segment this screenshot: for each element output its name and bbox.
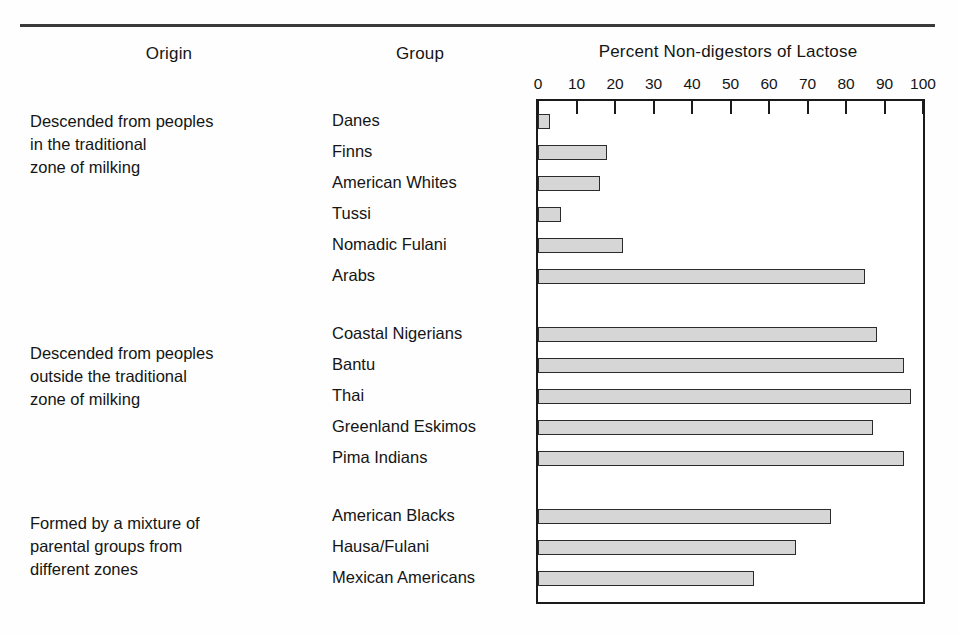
bar [538, 207, 561, 222]
top-rule [20, 24, 935, 27]
group-label: American Whites [332, 174, 532, 191]
group-label: American Blacks [332, 507, 532, 524]
x-axis-tick [576, 101, 578, 114]
x-axis-tick-label: 100 [910, 75, 936, 93]
x-axis-tick-label: 50 [722, 75, 739, 93]
bar [538, 176, 600, 191]
x-axis-tick [653, 101, 655, 114]
group-column-header: Group [352, 44, 488, 64]
bar [538, 571, 754, 586]
lactose-non-digestors-figure: Origin Group Percent Non-digestors of La… [0, 0, 958, 635]
bar [538, 145, 607, 160]
bar [538, 114, 550, 129]
group-label: Bantu [332, 356, 532, 373]
origin-description-1: Descended from peoples outside the tradi… [30, 342, 330, 411]
bar [538, 509, 831, 524]
bar-chart-plot-area: 0102030405060708090100 [536, 99, 925, 604]
group-label: Greenland Eskimos [332, 418, 532, 435]
x-axis-tick-label: 40 [683, 75, 700, 93]
x-axis-tick-label: 80 [837, 75, 854, 93]
x-axis-tick [691, 101, 693, 114]
bar [538, 269, 865, 284]
origin-line: Descended from peoples [30, 342, 330, 365]
bar [538, 420, 873, 435]
x-axis-tick-label: 20 [606, 75, 623, 93]
origin-line: zone of milking [30, 388, 330, 411]
origin-description-2: Formed by a mixture of parental groups f… [30, 512, 330, 581]
origin-line: parental groups from [30, 535, 330, 558]
group-label: Thai [332, 387, 532, 404]
x-axis-tick [922, 101, 924, 114]
origin-description-0: Descended from peoples in the traditiona… [30, 110, 330, 179]
x-axis-tick [537, 101, 539, 114]
group-label: Mexican Americans [332, 569, 532, 586]
group-label-column: DanesFinnsAmerican WhitesTussiNomadic Fu… [332, 99, 532, 600]
group-label: Tussi [332, 205, 532, 222]
x-axis-tick-label: 30 [645, 75, 662, 93]
origin-line: in the traditional [30, 133, 330, 156]
bar [538, 540, 796, 555]
chart-axis-title: Percent Non-digestors of Lactose [520, 42, 936, 62]
group-label: Hausa/Fulani [332, 538, 532, 555]
x-axis-tick [884, 101, 886, 114]
origin-line: Descended from peoples [30, 110, 330, 133]
bar [538, 358, 904, 373]
origin-line: Formed by a mixture of [30, 512, 330, 535]
origin-line: zone of milking [30, 156, 330, 179]
x-axis-tick-label: 60 [760, 75, 777, 93]
bar [538, 389, 911, 404]
x-axis-tick [845, 101, 847, 114]
bar [538, 451, 904, 466]
group-label: Nomadic Fulani [332, 236, 532, 253]
group-label: Finns [332, 143, 532, 160]
group-label: Coastal Nigerians [332, 325, 532, 342]
x-axis-tick-label: 0 [534, 75, 543, 93]
x-axis-tick [730, 101, 732, 114]
bar [538, 327, 877, 342]
origin-column-header: Origin [96, 44, 242, 64]
x-axis-tick-label: 90 [876, 75, 893, 93]
x-axis-tick [768, 101, 770, 114]
x-axis-tick [807, 101, 809, 114]
group-label: Danes [332, 112, 532, 129]
x-axis-tick-label: 10 [568, 75, 585, 93]
origin-line: different zones [30, 558, 330, 581]
group-label: Pima Indians [332, 449, 532, 466]
group-label: Arabs [332, 267, 532, 284]
x-axis-tick [614, 101, 616, 114]
origin-line: outside the traditional [30, 365, 330, 388]
bar [538, 238, 623, 253]
x-axis-tick-label: 70 [799, 75, 816, 93]
